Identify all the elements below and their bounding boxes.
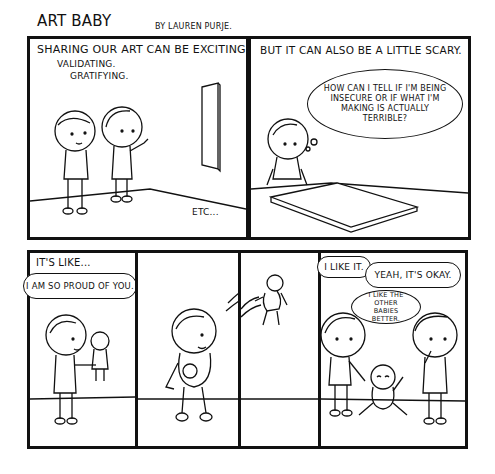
comic-byline: BY LAUREN PURJE. bbox=[155, 22, 232, 31]
speech-bubble-proud: I AM SO PROUD OF YOU. bbox=[23, 273, 137, 299]
panel-1: SHARING OUR ART CAN BE EXCITING. VALIDAT… bbox=[27, 36, 249, 240]
panel-4 bbox=[135, 250, 242, 449]
panel-2: BUT IT CAN ALSO BE A LITTLE SCARY. HOW C… bbox=[248, 36, 471, 240]
panel-3: IT'S LIKE... I AM SO PROUD OF YOU. bbox=[27, 250, 138, 449]
speech-bubble-other-babies: I LIKE THE OTHER BABIES BETTER. bbox=[351, 290, 421, 324]
speech-bubble-okay: YEAH, IT'S OKAY. bbox=[365, 262, 461, 288]
comic-title: ART BABY bbox=[37, 12, 111, 30]
speech-text-proud: I AM SO PROUD OF YOU. bbox=[26, 281, 134, 291]
speech-text-other-babies: I LIKE THE OTHER BABIES BETTER. bbox=[363, 291, 409, 323]
panel-2-drawing bbox=[251, 39, 468, 237]
panel-5 bbox=[238, 250, 322, 449]
panel-5-drawing bbox=[241, 253, 319, 446]
speech-text-okay: YEAH, IT'S OKAY. bbox=[374, 270, 451, 280]
panel-4-drawing bbox=[138, 253, 239, 446]
speech-bubble-like-it: I LIKE IT. bbox=[317, 256, 371, 278]
panel-6: I LIKE IT. YEAH, IT'S OKAY. I LIKE THE O… bbox=[318, 250, 468, 449]
panel-1-drawing bbox=[30, 39, 246, 237]
speech-text-like-it: I LIKE IT. bbox=[324, 262, 364, 272]
